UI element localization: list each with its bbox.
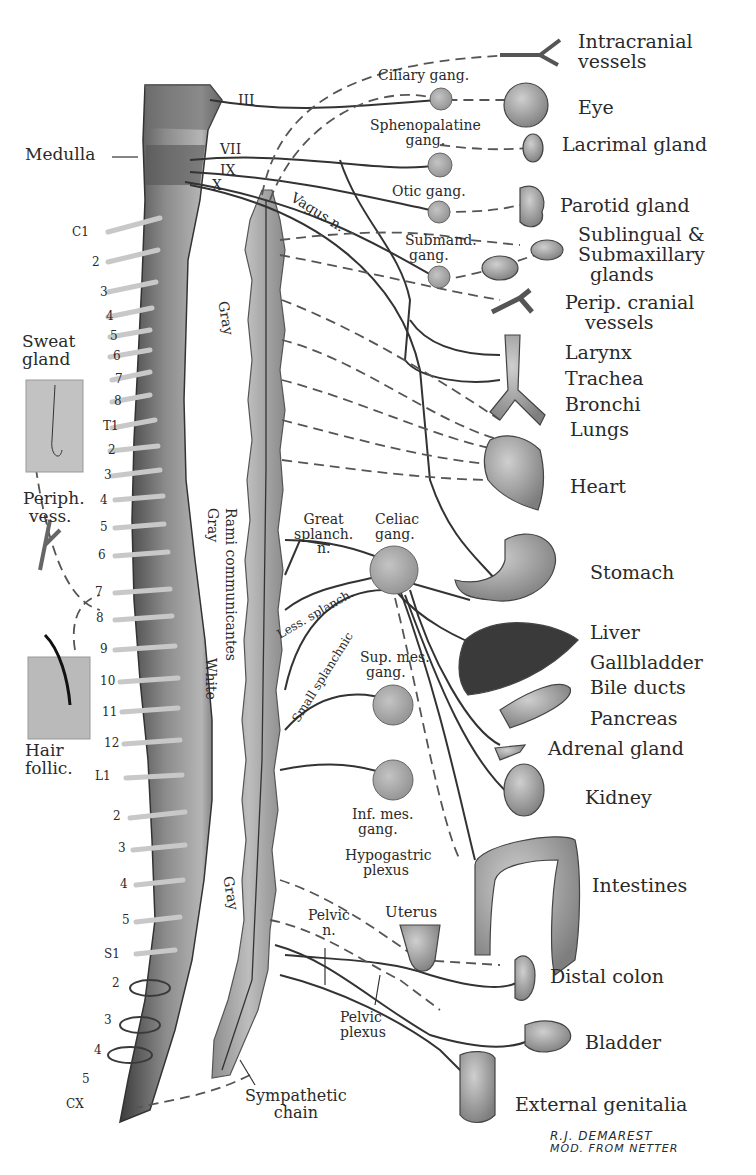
submaxillary-gland [482, 256, 518, 280]
segment-T1: T1 [103, 420, 119, 433]
segment-T5: 5 [100, 521, 108, 534]
distal-colon-label: Distal colon [550, 967, 664, 987]
segment-S2: 2 [112, 977, 120, 990]
peripheral-cranial-vessels-label: Perip. cranialvessels [565, 293, 694, 333]
cranial-nerve-X-label: X [212, 178, 222, 193]
peripheral-cranial-vessels [492, 290, 532, 312]
intracranial-vessels [500, 40, 560, 65]
submandibular-ganglion [428, 266, 450, 288]
segment-C2: 2 [92, 256, 100, 269]
stomach-label: Stomach [590, 563, 674, 583]
ciliary-ganglion-label: Ciliary gang. [378, 68, 469, 83]
segment-T11: 11 [102, 706, 117, 719]
segment-S1: S1 [104, 948, 120, 961]
segment-T3: 3 [104, 469, 112, 482]
segment-T10: 10 [100, 675, 115, 688]
segment-S4: 4 [94, 1044, 102, 1057]
gallbladder-label: Gallbladder [590, 653, 703, 673]
heart [484, 436, 543, 510]
segment-T2: 2 [108, 444, 116, 457]
cranial-nerve-IX-label: IX [220, 163, 236, 178]
segment-L3: 3 [118, 842, 126, 855]
parotid-gland [520, 186, 544, 227]
segment-T7: 7 [95, 586, 103, 599]
celiac-ganglion [370, 546, 418, 594]
sphenopalatine-ganglion-label: Sphenopalatinegang. [370, 118, 481, 147]
lacrimal-gland-label: Lacrimal gland [562, 135, 707, 155]
cranial-nerve-VII-label: VII [220, 142, 241, 157]
sweat-gland-label: Sweatgland [22, 333, 75, 369]
eye-label: Eye [578, 98, 614, 118]
segment-C3: 3 [100, 286, 108, 299]
sphenopalatine-ganglion [428, 153, 452, 177]
lacrimal-gland [523, 134, 543, 162]
artist-signature: R.J. DEMARESTMOD. FROM NETTER [550, 1130, 678, 1154]
segment-L5: 5 [122, 914, 130, 927]
liver-label: Liver [590, 623, 640, 643]
diagram-artwork [0, 0, 756, 1175]
segment-S5: 5 [82, 1073, 90, 1086]
segment-CX: CX [66, 1098, 84, 1111]
submandibular-ganglion-label: Submand.gang. [405, 233, 477, 262]
segment-C7: 7 [115, 373, 123, 386]
larynx-label: Larynx [565, 343, 632, 363]
uterus-label: Uterus [385, 905, 437, 921]
medulla-label: Medulla [25, 146, 95, 164]
hair-follicle-label: Hairfollic. [25, 742, 73, 778]
segment-C6: 6 [113, 350, 121, 363]
segment-T4: 4 [100, 494, 108, 507]
skin-insets [26, 380, 90, 739]
bronchi-label: Bronchi [565, 395, 641, 415]
ciliary-ganglion [430, 88, 452, 110]
eye [504, 83, 548, 127]
white-ramus-label: White [203, 658, 218, 700]
sublingual-gland [531, 240, 563, 260]
segment-L2: 2 [113, 810, 121, 823]
adrenal-gland-label: Adrenal gland [548, 739, 684, 759]
superior-mesenteric-ganglion [373, 685, 413, 725]
cranial-nerve-III-label: III [238, 93, 255, 108]
segment-C1: C1 [72, 226, 89, 239]
intestines-label: Intestines [592, 876, 687, 896]
inferior-mesenteric-ganglion-label: Inf. mes.gang. [352, 807, 413, 836]
autonomic-nervous-system-diagram: III VII IX X Medulla Sweatgland Periph.v… [0, 0, 756, 1175]
rami-communicantes-label: Rami communicantes [223, 508, 238, 661]
pancreas-label: Pancreas [590, 709, 678, 729]
gray-ramus-label-mid: Gray [205, 508, 220, 542]
segment-T6: 6 [98, 549, 106, 562]
parotid-gland-label: Parotid gland [560, 196, 690, 216]
pancreas [500, 684, 570, 728]
external-genitalia-label: External genitalia [515, 1095, 687, 1115]
peripheral-vessels-label: Periph.vess. [23, 490, 85, 526]
bladder-label: Bladder [585, 1033, 661, 1053]
kidney-label: Kidney [585, 788, 652, 808]
celiac-ganglion-label: Celiacgang. [375, 512, 419, 541]
pelvic-nerve-label: Pelvicn. [308, 908, 350, 937]
lungs-label: Lungs [570, 420, 629, 440]
sublingual-submaxillary-glands-label: Sublingual &Submaxillaryglands [578, 225, 705, 285]
intracranial-vessels-label: Intracranialvessels [578, 32, 693, 72]
otic-ganglion [428, 201, 450, 223]
hypogastric-plexus-label: Hypogastricplexus [345, 848, 432, 877]
segment-L4: 4 [120, 878, 128, 891]
external-genitalia [460, 1052, 495, 1123]
adrenal-gland [495, 745, 525, 760]
intestines [475, 837, 580, 975]
segment-C5: 5 [110, 330, 118, 343]
bladder [525, 1021, 571, 1052]
distal-colon [515, 956, 535, 1000]
pelvic-plexus-label: Pelvicplexus [340, 1010, 386, 1039]
segment-T12: 12 [104, 737, 119, 750]
segment-L1: L1 [95, 770, 111, 783]
stomach [455, 534, 556, 601]
segment-C8: 8 [114, 395, 122, 408]
trachea-label: Trachea [565, 369, 644, 389]
superior-mesenteric-ganglion-label: Sup. mes.gang. [360, 650, 430, 679]
kidney [504, 764, 544, 816]
uterus [400, 925, 440, 971]
sympathetic-chain-label: Sympatheticchain [245, 1088, 347, 1122]
heart-label: Heart [570, 477, 626, 497]
segment-T8: 8 [96, 612, 104, 625]
segment-T9: 9 [100, 643, 108, 656]
segment-C4: 4 [106, 310, 114, 323]
